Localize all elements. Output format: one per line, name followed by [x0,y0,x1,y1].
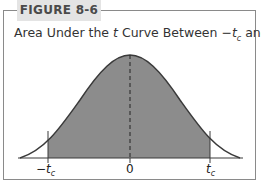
t-curve-plot [0,0,261,185]
zero-label: 0 [126,162,134,176]
neg-tc-label: −tc [36,162,55,178]
tc-label: tc [206,162,215,178]
